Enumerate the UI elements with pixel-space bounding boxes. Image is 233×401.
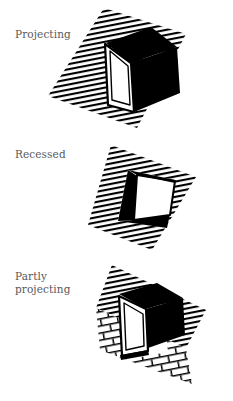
figure-label-recessed: Recessed [15, 148, 66, 161]
figure-projecting: Projecting [0, 0, 233, 135]
figure-art-projecting [0, 0, 233, 135]
roof-plane-hatching [70, 133, 215, 258]
window-frame-outer [119, 296, 148, 356]
roof-plane-hatching [30, 0, 210, 135]
figure-recessed: Recessed [0, 128, 233, 258]
window-glazing [124, 303, 144, 350]
window-placement-diagram: Projecting [0, 0, 233, 401]
window-cill [120, 350, 149, 360]
window-reveal-left [118, 170, 137, 221]
window-side-face [146, 298, 185, 348]
window-side-face [131, 47, 180, 112]
figure-label-projecting: Projecting [15, 28, 71, 41]
window-glazing [110, 51, 130, 105]
roof-plane-hatching [85, 252, 220, 362]
window-head-face [119, 283, 183, 309]
window-top-face [106, 27, 177, 63]
window-soffit-face [125, 62, 134, 112]
window-soffit-face [140, 308, 148, 348]
figure-label-partly-projecting: Partly projecting [15, 270, 70, 296]
figure-partly-projecting: Partly projecting [0, 252, 233, 401]
window-sill-face [118, 214, 170, 228]
brick-wall-texture [85, 297, 215, 397]
window-frame-outer [105, 44, 134, 112]
window-glazing [134, 175, 175, 220]
window-head-face [128, 170, 175, 183]
